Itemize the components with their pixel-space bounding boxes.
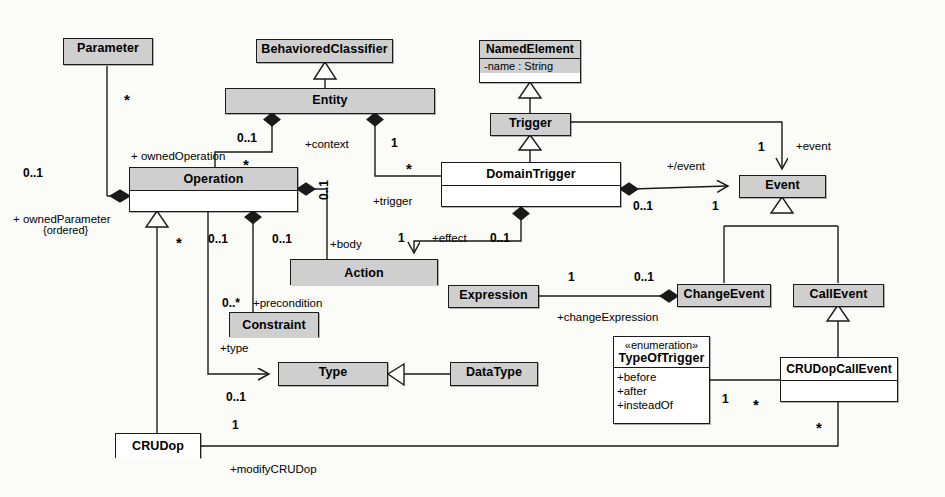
connector-layer [0, 0, 945, 497]
multiplicity-owned-operation-star: * [243, 160, 249, 169]
class-name: Constraint [230, 313, 318, 338]
multiplicity-operation-right-0-1: 0..1 [318, 180, 331, 200]
class-operation[interactable]: Operation [129, 167, 298, 212]
class-parameter[interactable]: Parameter [63, 38, 153, 65]
class-constraint[interactable]: Constraint [229, 312, 319, 337]
multiplicity-owned-operation-0-1: 0..1 [237, 131, 257, 145]
class-name: CRUDopCallEvent [781, 358, 897, 380]
class-body-compartment [130, 190, 297, 211]
class-name: Entity [226, 89, 434, 113]
enum-literals: +before +after +insteadOf [614, 367, 709, 412]
class-attribute: -name : String [480, 58, 580, 73]
role-modify-crudop: +modifyCRUDop [230, 463, 317, 476]
multiplicity-effect-1: 1 [398, 231, 405, 245]
class-name: Type [279, 363, 387, 382]
role-precondition: +precondition [253, 297, 322, 310]
class-expression[interactable]: Expression [448, 285, 539, 308]
enum-literal: +after [614, 384, 709, 398]
class-body-compartment [442, 185, 620, 206]
multiplicity-context-1: 1 [391, 136, 398, 150]
class-name: Event [740, 176, 825, 195]
enum-stereotype: «enumeration» [614, 337, 709, 352]
class-name: NamedElement [480, 41, 580, 58]
class-call-event[interactable]: CallEvent [793, 284, 884, 307]
class-crudop[interactable]: CRUDop [115, 433, 201, 458]
role-trigger: +trigger [373, 195, 412, 208]
class-crudop-call-event[interactable]: CRUDopCallEvent [780, 357, 898, 402]
multiplicity-enum-1: 1 [722, 392, 729, 406]
class-name: CRUDop [116, 434, 200, 459]
class-name: BehavioredClassifier [257, 40, 392, 59]
class-trigger[interactable]: Trigger [490, 113, 571, 136]
class-name: CallEvent [794, 285, 883, 304]
role-change-expression: +changeExpression [557, 311, 658, 324]
class-name: Parameter [64, 39, 152, 58]
role-owned-parameter-ordered: {ordered} [43, 224, 88, 236]
class-action[interactable]: Action [290, 259, 438, 285]
class-name: Operation [130, 168, 297, 190]
multiplicity-effect-0-1: 0..1 [490, 231, 510, 245]
class-entity[interactable]: Entity [225, 88, 435, 114]
multiplicity-change-0-1: 0..1 [634, 270, 654, 284]
multiplicity-parameter-star: * [124, 95, 130, 104]
multiplicity-expression-1: 1 [568, 270, 575, 284]
enum-literal: +insteadOf [614, 398, 709, 412]
multiplicity-body-0-1: 0..1 [208, 232, 228, 246]
class-domain-trigger[interactable]: DomainTrigger [441, 162, 621, 207]
multiplicity-trigger-star: * [406, 164, 412, 173]
class-event[interactable]: Event [739, 175, 826, 198]
class-behaviored-classifier[interactable]: BehavioredClassifier [256, 39, 393, 63]
multiplicity-operation-star: * [176, 238, 182, 247]
multiplicity-crudopcallevent-star: * [816, 423, 822, 432]
role-context: +context [305, 138, 349, 151]
class-name: Expression [449, 286, 538, 305]
multiplicity-precondition-0-star: 0..* [222, 296, 240, 310]
enum-literal: +before [614, 370, 709, 384]
multiplicity-domain-trigger-0-1: 0..1 [633, 199, 653, 213]
class-name: Action [291, 260, 437, 286]
class-type-of-trigger-enum[interactable]: «enumeration» TypeOfTrigger +before +aft… [613, 336, 710, 424]
class-name: Trigger [491, 114, 570, 133]
multiplicity-type-0-1: 0..1 [226, 390, 246, 404]
multiplicity-enum-star: * [753, 400, 759, 409]
class-body-compartment [781, 380, 897, 401]
class-data-type[interactable]: DataType [450, 362, 538, 386]
role-event: +event [796, 140, 831, 153]
uml-diagram-canvas: Parameter BehavioredClassifier Entity Na… [0, 0, 945, 497]
role-owned-operation: + ownedOperation [131, 150, 225, 163]
role-effect: +effect [432, 232, 467, 245]
multiplicity-precondition-0-1: 0..1 [272, 232, 292, 246]
multiplicity-parameter-0-1: 0..1 [23, 166, 43, 180]
role-body: +body [330, 238, 362, 251]
class-name: ChangeEvent [678, 285, 770, 304]
role-type: +type [220, 342, 248, 355]
class-name: TypeOfTrigger [614, 352, 709, 367]
class-named-element[interactable]: NamedElement -name : String [479, 40, 581, 83]
class-name: DataType [451, 363, 537, 382]
role-derived-event: +/event [667, 160, 705, 173]
multiplicity-crudop-1: 1 [232, 418, 239, 432]
class-name: DomainTrigger [442, 163, 620, 185]
class-change-event[interactable]: ChangeEvent [677, 284, 771, 307]
multiplicity-trigger-event-1: 1 [758, 140, 765, 154]
class-type[interactable]: Type [278, 362, 388, 386]
multiplicity-event-1: 1 [712, 199, 719, 213]
